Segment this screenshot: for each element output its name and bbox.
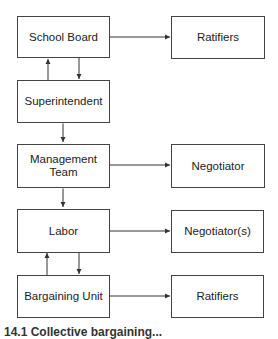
node-bargaining-unit: Bargaining Unit (17, 275, 110, 318)
node-ratifiers-top: Ratifiers (171, 16, 265, 59)
node-label: School Board (29, 31, 98, 44)
node-school-board: School Board (17, 16, 110, 58)
node-label: Labor (49, 225, 78, 238)
node-negotiator: Negotiator (171, 144, 265, 188)
node-ratifiers-bottom: Ratifiers (171, 275, 264, 318)
node-label: Ratifiers (197, 31, 239, 44)
node-label: Ratifiers (196, 290, 238, 303)
node-label: Superintendent (24, 95, 102, 108)
node-negotiators: Negotiator(s) (171, 210, 264, 253)
figure-caption: 14.1 Collective bargaining... (4, 325, 162, 339)
node-label: Negotiator (191, 160, 244, 173)
node-superintendent: Superintendent (17, 80, 110, 123)
node-label: Management Team (18, 153, 109, 179)
node-management-team: Management Team (17, 144, 110, 188)
node-labor: Labor (17, 209, 110, 253)
node-label: Bargaining Unit (24, 290, 103, 303)
node-label: Negotiator(s) (184, 225, 250, 238)
